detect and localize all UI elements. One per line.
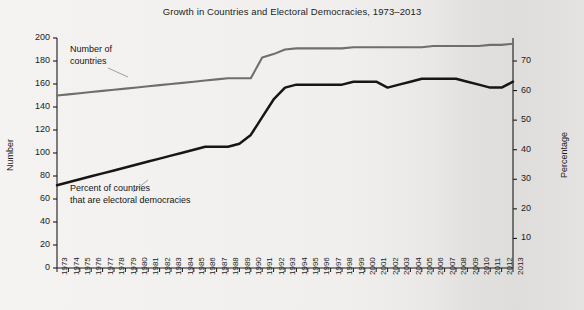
x-axis-tick-label: 2003 xyxy=(402,257,411,275)
right-axis-tick-label: 10 xyxy=(521,232,545,242)
x-axis-tick-label: 1985 xyxy=(197,257,206,275)
x-axis-tick-label: 1978 xyxy=(117,257,126,275)
number-of-countries-label: Number of countries xyxy=(70,44,112,67)
annotation-line-1: Percent of countries xyxy=(70,183,191,195)
right-axis-tick-label: 60 xyxy=(521,85,545,95)
x-axis-tick-label: 1979 xyxy=(129,257,138,275)
left-axis-tick-label: 160 xyxy=(19,78,50,88)
chart-tick-marks xyxy=(53,38,517,272)
x-axis-tick-label: 1995 xyxy=(311,257,320,275)
x-axis-tick-label: 2012 xyxy=(505,257,514,275)
left-axis-tick-label: 80 xyxy=(19,170,50,180)
x-axis-tick-label: 2002 xyxy=(391,257,400,275)
x-axis-tick-label: 2008 xyxy=(459,257,468,275)
chart-container: Growth in Countries and Electoral Democr… xyxy=(0,0,584,310)
left-axis-tick-label: 20 xyxy=(19,239,50,249)
left-axis-tick-label: 100 xyxy=(19,147,50,157)
x-axis-tick-label: 1991 xyxy=(265,257,274,275)
left-axis-tick-label: 140 xyxy=(19,101,50,111)
right-axis-tick-label: 70 xyxy=(521,55,545,65)
x-axis-tick-label: 1989 xyxy=(243,257,252,275)
x-axis-tick-label: 1994 xyxy=(300,257,309,275)
annotation-line-2: that are electoral democracies xyxy=(70,195,191,207)
x-axis-tick-label: 2010 xyxy=(482,257,491,275)
x-axis-tick-label: 2001 xyxy=(379,257,388,275)
x-axis-tick-label: 1977 xyxy=(106,257,115,275)
x-axis-tick-label: 2006 xyxy=(436,257,445,275)
x-axis-tick-label: 1982 xyxy=(163,257,172,275)
right-axis-tick-label: 50 xyxy=(521,114,545,124)
x-axis-tick-label: 1996 xyxy=(322,257,331,275)
x-axis-tick-label: 2007 xyxy=(448,257,457,275)
x-axis-tick-label: 2009 xyxy=(471,257,480,275)
left-axis-tick-label: 0 xyxy=(19,262,50,272)
x-axis-tick-label: 1984 xyxy=(186,257,195,275)
x-axis-tick-label: 1975 xyxy=(83,257,92,275)
x-axis-tick-label: 1997 xyxy=(334,257,343,275)
left-axis-tick-label: 40 xyxy=(19,216,50,226)
x-axis-tick-label: 1988 xyxy=(231,257,240,275)
x-axis-tick-label: 1990 xyxy=(254,257,263,275)
right-axis-tick-label: 40 xyxy=(521,144,545,154)
x-axis-tick-label: 1973 xyxy=(60,257,69,275)
x-axis-tick-label: 1981 xyxy=(151,257,160,275)
x-axis-tick-label: 1976 xyxy=(94,257,103,275)
x-axis-tick-label: 1999 xyxy=(357,257,366,275)
x-axis-tick-label: 1993 xyxy=(288,257,297,275)
left-axis-tick-label: 120 xyxy=(19,124,50,134)
percent-democracies-label: Percent of countries that are electoral … xyxy=(70,183,191,206)
chart-axes xyxy=(57,38,513,268)
x-axis-tick-label: 1974 xyxy=(72,257,81,275)
x-axis-tick-label: 2011 xyxy=(493,258,502,275)
annotation-line-1: Number of xyxy=(70,44,112,56)
left-axis-tick-label: 60 xyxy=(19,193,50,203)
x-axis-tick-label: 1980 xyxy=(140,257,149,275)
x-axis-tick-label: 1992 xyxy=(277,257,286,275)
x-axis-tick-label: 2013 xyxy=(516,257,525,275)
x-axis-tick-label: 1986 xyxy=(208,257,217,275)
right-axis-tick-label: 30 xyxy=(521,173,545,183)
chart-series-lines xyxy=(57,44,513,185)
x-axis-tick-label: 2005 xyxy=(425,257,434,275)
x-axis-tick-label: 1998 xyxy=(345,257,354,275)
x-axis-tick-label: 2000 xyxy=(368,257,377,275)
x-axis-tick-label: 1987 xyxy=(220,257,229,275)
x-axis-tick-label: 1983 xyxy=(174,257,183,275)
right-axis-tick-label: 20 xyxy=(521,203,545,213)
x-axis-tick-label: 2004 xyxy=(414,257,423,275)
left-axis-tick-label: 180 xyxy=(19,55,50,65)
left-axis-tick-label: 200 xyxy=(19,32,50,42)
annotation-line-2: countries xyxy=(70,56,112,68)
